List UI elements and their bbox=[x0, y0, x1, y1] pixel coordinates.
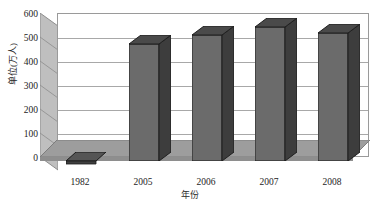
x-axis-ticks: 1982 2005 2006 2007 2008 bbox=[0, 176, 379, 190]
y-tick-label: 0 bbox=[12, 153, 38, 163]
y-tick-label: 100 bbox=[12, 129, 38, 139]
plot-area bbox=[0, 0, 379, 205]
x-tick-label: 2006 bbox=[176, 176, 236, 188]
bar-2007 bbox=[255, 18, 297, 161]
y-tick-label: 600 bbox=[12, 9, 38, 19]
y-tick-label: 200 bbox=[12, 105, 38, 115]
x-tick-label: 2008 bbox=[302, 176, 362, 188]
x-tick-label: 2005 bbox=[113, 176, 173, 188]
bar-2008 bbox=[318, 24, 360, 161]
x-tick-label: 2007 bbox=[239, 176, 299, 188]
x-tick-label: 1982 bbox=[50, 176, 110, 188]
bar-chart: 600 500 400 300 200 100 0 单位(万人) 1982 20… bbox=[0, 0, 379, 205]
bar-1982 bbox=[66, 152, 106, 166]
y-axis-title: 单位(万人) bbox=[6, 29, 20, 99]
bar-2005 bbox=[129, 35, 171, 161]
x-axis-title: 年份 bbox=[0, 189, 379, 201]
bar-2006 bbox=[192, 26, 234, 161]
